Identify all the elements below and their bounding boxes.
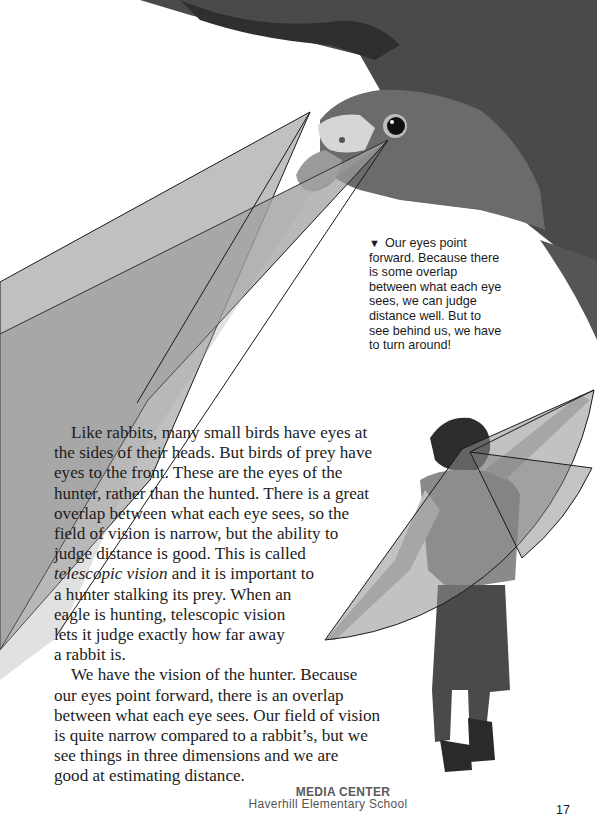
caption-line: see behind us, we have <box>369 324 569 339</box>
caption-line: distance well. But to <box>369 309 569 324</box>
text-line: is quite narrow compared to a rabbit’s, … <box>54 726 380 746</box>
text-line: We have the vision of the hunter. Becaus… <box>54 665 380 685</box>
caption-line: to turn around! <box>369 338 569 353</box>
text-fragment: and it is important to <box>167 564 314 583</box>
text-line: our eyes point forward, there is an over… <box>54 686 380 706</box>
text-line: hunter, rather than the hunted. There is… <box>54 484 380 504</box>
text-line: lets it judge exactly how far away <box>54 625 380 645</box>
paragraph-1: Like rabbits, many small birds have eyes… <box>54 423 380 665</box>
page-number: 17 <box>556 803 570 817</box>
text-line: see things in three dimensions and we ar… <box>54 746 380 766</box>
text-line: judge distance is good. This is called <box>54 544 380 564</box>
caption-line: sees, we can judge <box>369 294 569 309</box>
caption: ▼Our eyes point forward. Because there i… <box>369 236 569 353</box>
body-text: Like rabbits, many small birds have eyes… <box>54 423 380 787</box>
caption-line: between what each eye <box>369 280 569 295</box>
text-line: eyes to the front. These are the eyes of… <box>54 463 380 483</box>
italic-term: telescopic vision <box>54 564 167 583</box>
stamp-line-2: Haverhill Elementary School <box>238 798 418 810</box>
caption-line: forward. Because there <box>369 251 569 266</box>
caption-line: Our eyes point <box>385 236 467 250</box>
text-line: Like rabbits, many small birds have eyes… <box>54 423 380 443</box>
text-line: eagle is hunting, telescopic vision <box>54 605 380 625</box>
text-line: field of vision is narrow, but the abili… <box>54 524 380 544</box>
text-line: between what each eye sees. Our field of… <box>54 706 380 726</box>
triangle-down-icon: ▼ <box>369 237 380 249</box>
text-line: telescopic vision and it is important to <box>54 564 380 584</box>
caption-line: is some overlap <box>369 265 569 280</box>
library-stamp: MEDIA CENTER Haverhill Elementary School <box>238 786 418 810</box>
paragraph-2: We have the vision of the hunter. Becaus… <box>54 665 380 786</box>
text-line: a hunter stalking its prey. When an <box>54 585 380 605</box>
text-line: overlap between what each eye sees, so t… <box>54 504 380 524</box>
text-line: a rabbit is. <box>54 645 380 665</box>
text-line: good at estimating distance. <box>54 766 380 786</box>
text-line: the sides of their heads. But birds of p… <box>54 443 380 463</box>
